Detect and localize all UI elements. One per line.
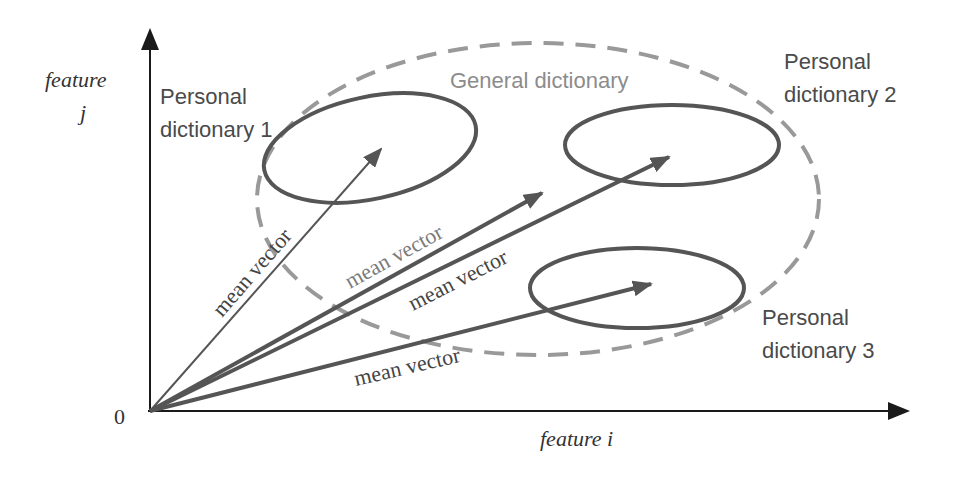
- personal-dictionary-1-label-line1: Personal: [160, 84, 247, 109]
- diagram-canvas: mean vector mean vector mean vector mean…: [0, 0, 967, 481]
- y-axis-label-line2: j: [77, 100, 86, 125]
- origin-label: 0: [114, 404, 125, 429]
- personal-dictionary-2-label-line1: Personal: [784, 49, 871, 74]
- mean-vector-label-1: mean vector: [207, 223, 297, 322]
- y-axis-label-line1: feature: [45, 67, 107, 92]
- y-axis-arrowhead-icon: [141, 28, 159, 50]
- personal-dictionary-1-label-line2: dictionary 1: [160, 117, 273, 142]
- personal-dictionary-3-label-line1: Personal: [762, 305, 849, 330]
- x-axis-label: feature i: [540, 426, 613, 451]
- mean-vector-label-3: mean vector: [352, 342, 464, 391]
- x-axis-arrowhead-icon: [888, 402, 910, 420]
- personal-dictionary-2-ellipse: [565, 105, 779, 185]
- personal-dictionary-1-ellipse: [254, 76, 486, 221]
- personal-dictionary-3-label-line2: dictionary 3: [762, 338, 875, 363]
- general-dictionary-label: General dictionary: [450, 68, 629, 93]
- personal-dictionary-2-label-line2: dictionary 2: [784, 82, 897, 107]
